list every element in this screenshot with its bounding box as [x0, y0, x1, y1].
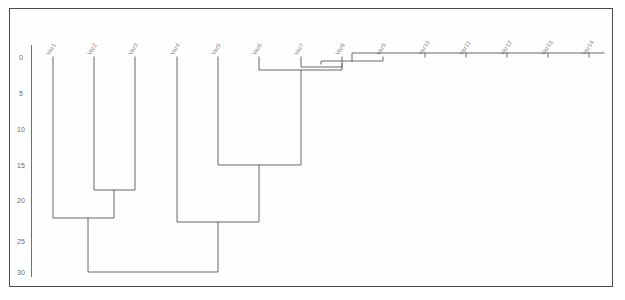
- link-m2: [53, 57, 114, 218]
- dendrogram-plot: [0, 0, 625, 300]
- link-m7: [301, 57, 342, 67]
- link-root: [88, 218, 218, 272]
- link-m9: [352, 53, 604, 61]
- link-m5: [259, 57, 342, 70]
- link-m1: [94, 57, 135, 190]
- dendrogram-figure: 0 5 10 15 20 25 30 Var1 Var2 Var3 Var4 V…: [0, 0, 625, 300]
- link-m3: [218, 57, 301, 165]
